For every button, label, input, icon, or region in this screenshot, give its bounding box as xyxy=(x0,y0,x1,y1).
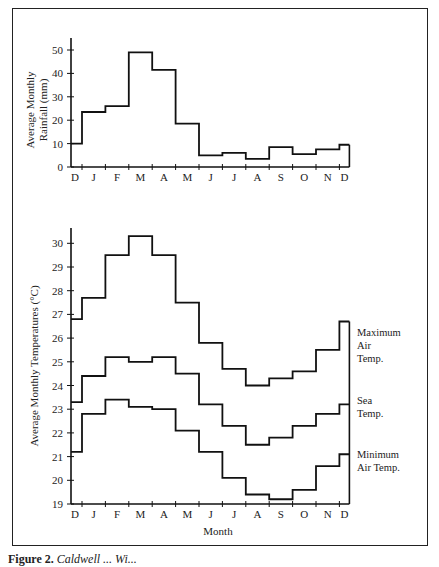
x-tick-label: O xyxy=(300,171,308,183)
x-tick-label: J xyxy=(232,508,237,520)
sea-temp-line xyxy=(71,357,349,445)
y-tick-label: 26 xyxy=(52,332,64,344)
x-tick-label: J xyxy=(92,508,97,520)
x-tick-label: D xyxy=(340,171,348,183)
caption-text: Caldwell ... Wi... xyxy=(57,552,137,566)
x-tick-label: A xyxy=(254,508,262,520)
y-tick-label: 19 xyxy=(52,498,64,510)
x-tick-label: S xyxy=(278,508,284,520)
y-tick-label: 20 xyxy=(52,114,64,126)
y-tick-label: 23 xyxy=(52,403,64,415)
caption-label: Figure 2. xyxy=(8,552,54,566)
min-air-temp-line xyxy=(71,400,349,500)
x-tick-label: F xyxy=(114,171,120,183)
max-air-temp-line xyxy=(71,236,349,385)
y-tick-label: 0 xyxy=(58,161,64,173)
x-tick-label: O xyxy=(300,508,308,520)
y-tick-label: 10 xyxy=(52,138,64,150)
rainfall-chart: 01020304050DJFMAMJJASONDAverage MonthlyR… xyxy=(24,38,349,183)
temperature-chart: 192021222324252627282930DJFMAMJJASONDAve… xyxy=(28,228,401,537)
y-tick-label: 24 xyxy=(52,380,64,392)
x-tick-label: A xyxy=(160,508,168,520)
y-tick-label: 28 xyxy=(52,285,64,297)
x-tick-label: M xyxy=(136,508,146,520)
x-tick-label: D xyxy=(71,171,79,183)
x-tick-label: M xyxy=(182,508,192,520)
x-tick-label: J xyxy=(232,171,237,183)
rainfall-step-line xyxy=(71,52,349,158)
x-tick-label: A xyxy=(160,171,168,183)
x-tick-label: A xyxy=(254,171,262,183)
legend-sea-temp: SeaTemp. xyxy=(357,395,383,419)
y-tick-label: 27 xyxy=(52,308,64,320)
x-tick-label: S xyxy=(278,171,284,183)
y-tick-label: 22 xyxy=(52,427,63,439)
x-tick-label: D xyxy=(340,508,348,520)
y-tick-label: 29 xyxy=(52,261,64,273)
x-tick-label: J xyxy=(209,508,214,520)
temp-x-axis-label: Month xyxy=(203,525,233,537)
temp-y-axis-label: Average Monthly Temperatures (°C) xyxy=(28,285,41,446)
y-tick-label: 50 xyxy=(52,44,64,56)
x-tick-label: J xyxy=(92,171,97,183)
legend-max-air-temp: MaximumAirTemp. xyxy=(357,327,401,364)
x-tick-label: M xyxy=(136,171,146,183)
x-tick-label: F xyxy=(114,508,120,520)
figure-caption: Figure 2. Caldwell ... Wi... xyxy=(8,552,137,567)
y-tick-label: 21 xyxy=(52,451,63,463)
x-tick-label: D xyxy=(71,508,79,520)
y-tick-label: 30 xyxy=(52,91,64,103)
x-tick-label: J xyxy=(209,171,214,183)
y-tick-label: 30 xyxy=(52,237,64,249)
y-tick-label: 25 xyxy=(52,356,64,368)
y-tick-label: 20 xyxy=(52,474,64,486)
rainfall-y-axis-label: Average MonthlyRainfall (mm) xyxy=(24,71,50,149)
legend-min-air-temp: MinimumAir Temp. xyxy=(357,449,400,473)
x-tick-label: N xyxy=(324,508,332,520)
x-tick-label: N xyxy=(324,171,332,183)
y-tick-label: 40 xyxy=(52,67,64,79)
x-tick-label: M xyxy=(182,171,192,183)
